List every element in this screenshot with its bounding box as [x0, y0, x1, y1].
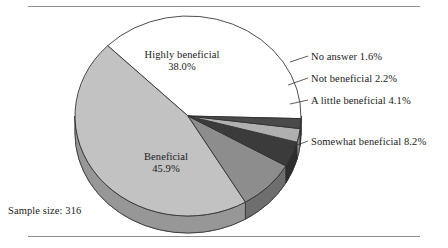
pie-chart-figure: Highly beneficial 38.0% Beneficial 45.9%…: [0, 0, 448, 248]
slice-label-beneficial: Beneficial 45.9%: [106, 151, 226, 175]
slice-label-highly-beneficial: Highly beneficial 38.0%: [122, 49, 242, 73]
slice-label-highly-beneficial-pct: 38.0%: [122, 61, 242, 73]
callout-label-somewhat-beneficial: Somewhat beneficial 8.2%: [311, 136, 426, 148]
slice-label-highly-beneficial-name: Highly beneficial: [145, 49, 220, 60]
callout-label-no-answer: No answer 1.6%: [311, 51, 382, 63]
leader-line-no-answer: [290, 56, 308, 62]
slice-label-beneficial-pct: 45.9%: [106, 163, 226, 175]
callout-label-a-little-beneficial: A little beneficial 4.1%: [311, 95, 411, 107]
sample-size-text: Sample size: 316: [8, 205, 81, 217]
callout-label-not-beneficial: Not beneficial 2.2%: [311, 73, 397, 85]
slice-label-beneficial-name: Beneficial: [144, 151, 188, 162]
